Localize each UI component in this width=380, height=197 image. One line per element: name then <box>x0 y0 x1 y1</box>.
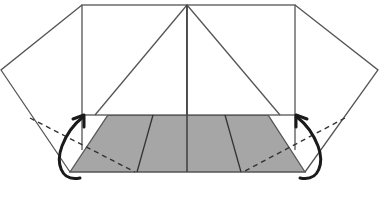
right-square <box>187 5 295 115</box>
left-square <box>82 5 187 115</box>
origami-diagram <box>0 0 380 197</box>
diagram-svg <box>0 0 380 197</box>
left-flap <box>1 5 82 172</box>
right-flap <box>295 5 378 172</box>
